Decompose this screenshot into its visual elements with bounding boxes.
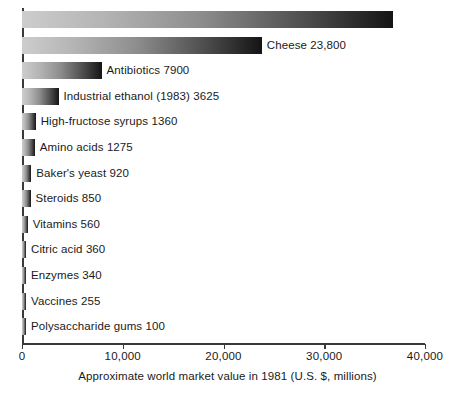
- bar-label: Citric acid 360: [31, 241, 105, 258]
- bar-label: Vaccines 255: [31, 293, 100, 310]
- x-tick-mark: [123, 344, 124, 349]
- bar: [22, 113, 36, 130]
- bar: [22, 88, 59, 105]
- x-tick-mark: [22, 344, 23, 349]
- bar-label: Antibiotics 7900: [107, 62, 190, 79]
- x-tick-mark: [224, 344, 225, 349]
- bar-label: Vitamins 560: [33, 216, 100, 233]
- x-tick-label: 20,000: [205, 350, 241, 362]
- bar: [22, 190, 31, 207]
- bar-label: Industrial ethanol (1983) 3625: [64, 88, 220, 105]
- bar-label: Polysaccharide gums 100: [31, 318, 165, 335]
- bar: [22, 139, 35, 156]
- bar: [22, 216, 28, 233]
- bar: [22, 318, 26, 335]
- bar-chart: Alcoholic beverages 36,800Cheese 23,800A…: [0, 0, 455, 404]
- x-tick-label: 40,000: [407, 350, 443, 362]
- bar-label: Amino acids 1275: [40, 139, 133, 156]
- bar: [22, 267, 26, 284]
- plot-area: Alcoholic beverages 36,800Cheese 23,800A…: [22, 8, 425, 343]
- x-tick-label: 10,000: [105, 350, 141, 362]
- x-tick-mark: [324, 344, 325, 349]
- x-axis-caption: Approximate world market value in 1981 (…: [0, 370, 455, 382]
- bar: [22, 11, 393, 28]
- bar-label: Baker's yeast 920: [36, 165, 129, 182]
- bar: [22, 37, 262, 54]
- bar-label: High-fructose syrups 1360: [41, 113, 178, 130]
- bar-label: Steroids 850: [36, 190, 102, 207]
- bar: [22, 62, 102, 79]
- x-tick-mark: [425, 344, 426, 349]
- bar-label: Enzymes 340: [31, 267, 102, 284]
- bar: [22, 293, 26, 310]
- bar: [22, 241, 26, 258]
- x-tick-label: 0: [19, 350, 26, 362]
- bar: [22, 165, 31, 182]
- x-tick-label: 30,000: [306, 350, 342, 362]
- bar-label: Cheese 23,800: [267, 37, 346, 54]
- bar-label: Alcoholic beverages 36,800: [0, 11, 22, 28]
